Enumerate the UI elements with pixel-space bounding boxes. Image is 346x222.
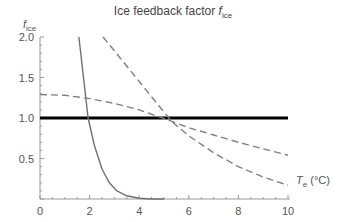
x-tick-label: 2: [87, 205, 93, 217]
y-tick-label: 1.0: [19, 112, 34, 124]
x-axis-label: Te (°C): [296, 174, 330, 189]
series-line-3: [103, 37, 288, 185]
y-tick-label: 0.5: [19, 153, 34, 165]
x-tick-label: 8: [235, 205, 241, 217]
series-line-2: [40, 95, 288, 156]
x-tick-label: 10: [282, 205, 294, 217]
x-tick-label: 0: [37, 205, 43, 217]
y-tick-label: 1.5: [19, 72, 34, 84]
x-tick-label: 6: [186, 205, 192, 217]
x-tick-label: 4: [136, 205, 142, 217]
chart-plot: 02468100.51.01.52.0ficeTe (°C): [0, 0, 346, 222]
